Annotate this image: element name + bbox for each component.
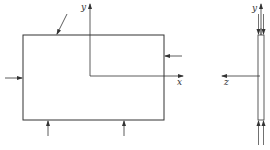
y-axis-label: y (80, 2, 87, 12)
z-axis-label: z (223, 77, 229, 87)
plate-front-view (23, 35, 164, 120)
plate-side-view (258, 35, 264, 120)
x-axis-label: x (177, 77, 182, 87)
load-arrow-top-diagonal (57, 14, 67, 34)
diagram-canvas: y x y z (0, 0, 270, 150)
side-y-axis-label: y (251, 3, 258, 13)
